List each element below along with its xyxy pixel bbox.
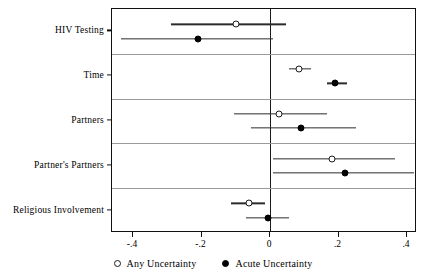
legend-item: Any Uncertainty [114,258,197,269]
estimate-marker-open [275,110,282,117]
legend-item: Acute Uncertainty [222,258,312,269]
category-label-religious-involvement: Religious Involvement [13,205,104,215]
band-separator [112,99,415,100]
x-axis-tick [132,232,133,237]
estimate-marker-filled [342,169,349,176]
category-tick [107,30,111,31]
estimate-marker-filled [332,80,339,87]
band-separator [112,143,415,144]
legend-label: Any Uncertainty [127,258,197,269]
estimate-marker-open [232,21,239,28]
plot-area [111,8,416,232]
confidence-interval-line [171,24,286,25]
x-axis-tick-label: .4 [402,239,409,249]
x-axis-tick [338,232,339,237]
estimate-marker-filled [195,35,202,42]
category-tick [107,164,111,165]
x-axis-tick-label: 0 [267,239,272,249]
category-tick [107,209,111,210]
category-label-partners: Partners [71,115,104,125]
zero-reference-line [270,9,271,231]
estimate-marker-open [246,200,253,207]
filled-circle-icon [222,260,229,267]
estimate-marker-open [296,66,303,73]
x-axis-tick [269,232,270,237]
x-axis-tick [406,232,407,237]
estimate-marker-filled [297,125,304,132]
x-axis-tick [201,232,202,237]
estimate-marker-filled [265,214,272,221]
x-axis-tick-label: -.4 [127,239,137,249]
category-label-hiv-testing: HIV Testing [55,25,104,35]
forest-plot-figure: HIV TestingTimePartnersPartner's Partner… [0,0,426,276]
estimate-marker-open [328,155,335,162]
open-circle-icon [114,260,121,267]
category-label-time: Time [83,70,104,80]
band-separator [112,188,415,189]
band-separator [112,54,415,55]
x-axis-tick-label: .2 [334,239,341,249]
legend-label: Acute Uncertainty [235,258,312,269]
category-tick [107,75,111,76]
x-axis-tick-label: -.2 [195,239,205,249]
category-tick [107,119,111,120]
category-label-partner-s-partners: Partner's Partners [34,160,104,170]
chart-legend: Any UncertaintyAcute Uncertainty [0,258,426,269]
